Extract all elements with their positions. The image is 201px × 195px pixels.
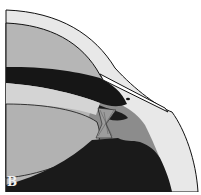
left-border bbox=[0, 8, 6, 195]
incision-point bbox=[126, 98, 130, 100]
eye-anatomy-diagram bbox=[0, 0, 201, 195]
panel-label: B bbox=[7, 176, 17, 188]
bottom-strip bbox=[0, 192, 201, 195]
